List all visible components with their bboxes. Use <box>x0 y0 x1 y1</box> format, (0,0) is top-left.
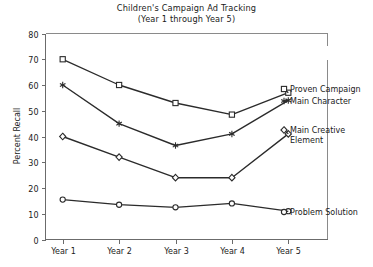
y-tick-label: 30 <box>28 159 38 168</box>
marker-problem-solution <box>60 197 65 202</box>
x-axis-tick-labels: Year 1Year 2Year 3Year 4Year 5 <box>50 247 301 256</box>
line-chart-plot: 01020304050607080 Year 1Year 2Year 3Year… <box>0 0 373 267</box>
y-tick-label: 10 <box>28 211 38 220</box>
x-tick-label: Year 5 <box>275 247 301 256</box>
marker-main-creative-element <box>116 154 122 161</box>
x-axis-ticks <box>64 240 289 244</box>
marker-main-character <box>60 82 66 88</box>
legend-label-problem-solution: Problem Solution <box>290 208 358 217</box>
y-tick-label: 40 <box>28 134 38 143</box>
y-tick-label: 50 <box>28 108 38 117</box>
legend-markers-group <box>281 86 287 214</box>
legend-label-main-creative-element-line1: Main Creative <box>290 126 345 135</box>
legend-label-main-creative-element-line2: Element <box>290 136 323 145</box>
series-line-main-character <box>63 85 289 146</box>
x-tick-label: Year 1 <box>50 247 76 256</box>
marker-proven-campaign <box>60 57 65 62</box>
y-axis-title: Percent Recall <box>13 108 22 165</box>
y-axis-ticks <box>42 35 46 241</box>
y-tick-label: 20 <box>28 185 38 194</box>
legend-marker-problem-solution <box>281 209 286 214</box>
y-tick-label: 80 <box>28 31 38 40</box>
y-tick-label: 70 <box>28 56 38 65</box>
marker-main-character <box>116 120 122 126</box>
series-line-main-creative-element <box>63 134 289 178</box>
series-lines-group <box>63 59 289 211</box>
legend-marker-proven-campaign <box>281 86 286 91</box>
marker-problem-solution <box>173 205 178 210</box>
legend-leader-lines-group <box>284 89 288 212</box>
marker-main-creative-element <box>172 174 178 181</box>
marker-proven-campaign <box>117 82 122 87</box>
marker-problem-solution <box>229 201 234 206</box>
legend-label-proven-campaign: Proven Campaign <box>290 85 361 94</box>
legend-label-main-character: Main Character <box>290 97 352 106</box>
y-tick-label: 60 <box>28 82 38 91</box>
x-tick-label: Year 3 <box>163 247 189 256</box>
x-tick-label: Year 4 <box>219 247 245 256</box>
x-tick-label: Year 2 <box>106 247 132 256</box>
y-axis-tick-labels: 01020304050607080 <box>28 31 38 246</box>
marker-main-creative-element <box>60 133 66 140</box>
marker-proven-campaign <box>173 100 178 105</box>
chart-container: Children's Campaign Ad Tracking (Year 1 … <box>0 0 373 267</box>
marker-problem-solution <box>117 202 122 207</box>
marker-proven-campaign <box>229 112 234 117</box>
y-tick-label: 0 <box>33 237 38 246</box>
series-line-proven-campaign <box>63 59 289 114</box>
plot-frame-top <box>46 34 328 46</box>
series-markers-group <box>60 57 292 214</box>
